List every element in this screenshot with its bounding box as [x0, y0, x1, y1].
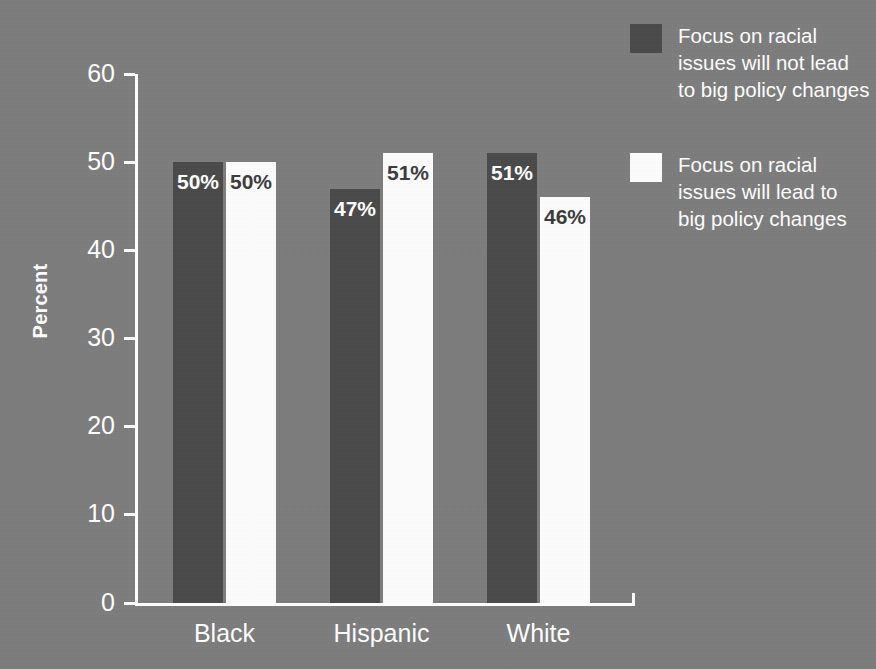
y-axis-tick: 30: [124, 337, 135, 340]
y-axis-tick: 0: [124, 602, 135, 605]
legend-item[interactable]: Focus on racial issues will not lead to …: [630, 22, 870, 103]
y-axis-tick-label: 40: [87, 236, 115, 261]
legend: Focus on racial issues will not lead to …: [630, 22, 870, 280]
y-axis-line: [135, 74, 138, 603]
bar-chart: Percent 0102030405060 50%50%47%51%51%46%…: [0, 0, 876, 669]
x-axis-line: [135, 603, 635, 606]
bar-value-label: 51%: [383, 162, 433, 183]
y-axis-title: Percent: [29, 264, 52, 339]
bar-value-label: 47%: [330, 198, 380, 219]
x-axis-category-label: Hispanic: [334, 621, 430, 646]
x-axis-category-label: Black: [194, 621, 255, 646]
plot-area: 0102030405060 50%50%47%51%51%46% BlackHi…: [135, 74, 635, 603]
bar-value-label: 50%: [226, 171, 276, 192]
legend-swatch-light-icon: [630, 153, 662, 182]
y-axis-tick-label: 0: [101, 589, 115, 614]
x-axis-end-cap: [632, 593, 635, 603]
y-axis-tick-label: 10: [87, 501, 115, 526]
y-axis-tick-label: 20: [87, 413, 115, 438]
y-axis-tick: 10: [124, 513, 135, 516]
bar-value-label: 51%: [487, 162, 537, 183]
bar-value-label: 46%: [540, 206, 590, 227]
y-axis-tick-label: 30: [87, 325, 115, 350]
bar[interactable]: 51%: [487, 153, 537, 603]
y-axis-tick: 60: [124, 73, 135, 76]
y-axis-tick: 40: [124, 249, 135, 252]
x-axis-category-label: White: [507, 621, 571, 646]
bar[interactable]: 50%: [173, 162, 223, 603]
legend-swatch-dark-icon: [630, 24, 662, 53]
y-axis-tick: 50: [124, 161, 135, 164]
bar[interactable]: 50%: [226, 162, 276, 603]
bar[interactable]: 46%: [540, 197, 590, 603]
y-axis-tick: 20: [124, 425, 135, 428]
y-axis-tick-label: 50: [87, 148, 115, 173]
bar[interactable]: 51%: [383, 153, 433, 603]
legend-item-label: Focus on racial issues will not lead to …: [678, 22, 870, 103]
legend-item[interactable]: Focus on racial issues will lead to big …: [630, 151, 870, 232]
y-axis-tick-label: 60: [87, 60, 115, 85]
bar-value-label: 50%: [173, 171, 223, 192]
legend-item-label: Focus on racial issues will lead to big …: [678, 151, 870, 232]
bar[interactable]: 47%: [330, 189, 380, 603]
